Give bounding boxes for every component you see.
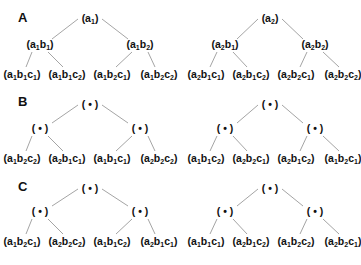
tree-mid-node: ( • ) [32, 122, 49, 134]
edge-mid-leaf [300, 219, 307, 234]
tree-leaf-node: (a1​b1​c1​) [94, 152, 131, 165]
tree-leaf-node: (a1​b1​c2​) [188, 152, 225, 165]
tree-leaf-node: (a2​b2​c2​) [325, 68, 361, 81]
panel-label-c: C [18, 179, 28, 194]
tree-root-node: (a1​) [82, 12, 99, 25]
tree-root-node: (a2​) [262, 12, 279, 25]
tree-mid-node: (a1​b1​) [26, 38, 53, 51]
edge-mid-leaf [233, 219, 247, 234]
tree-mid-node: ( • ) [132, 122, 149, 134]
edge-root-mid [237, 105, 258, 123]
edge-root-mid [102, 19, 128, 39]
tree-leaf-node: (a2​b1​c1​) [141, 235, 178, 248]
edge-mid-leaf [26, 136, 32, 151]
edge-mid-leaf [116, 52, 132, 67]
edge-mid-leaf [26, 52, 32, 67]
tree-leaf-node: (a1​b2​c2​) [278, 235, 315, 248]
tree-mid-node: ( • ) [32, 205, 49, 217]
edge-root-mid [52, 105, 78, 123]
edge-mid-leaf [210, 52, 217, 67]
edge-mid-leaf [210, 219, 217, 234]
edge-mid-leaf [116, 136, 132, 151]
panel-label-a: A [18, 10, 28, 25]
tree-leaf-node: (a2​b2​c2​) [141, 152, 178, 165]
panel-label-b: B [18, 94, 27, 109]
tree-mid-node: (a2​b2​) [301, 38, 328, 51]
edge-root-mid [237, 19, 258, 39]
tree-mid-node: ( • ) [307, 205, 324, 217]
diagram-svg: A(a1​)(a1​b1​)(a1​b2​)(a1​b1​c1​)(a1​b1​… [0, 0, 361, 265]
tree-leaf-node: (a2​b1​c1​) [188, 68, 225, 81]
edge-mid-leaf [233, 52, 247, 67]
tree-leaf-node: (a1​b2​c1​) [4, 235, 41, 248]
tree-mid-node: ( • ) [307, 122, 324, 134]
edge-root-mid [237, 189, 258, 206]
tree-leaf-node: (a2​b2​c1​) [325, 235, 361, 248]
edge-mid-leaf [233, 136, 247, 151]
edge-mid-leaf [323, 136, 339, 151]
tree-mid-node: ( • ) [217, 205, 234, 217]
tree-leaf-node: (a1​b2​c1​) [94, 68, 131, 81]
edge-mid-leaf [323, 219, 339, 234]
edge-mid-leaf [116, 219, 132, 234]
edge-mid-leaf [148, 52, 155, 67]
edge-root-mid [282, 19, 303, 39]
tree-leaf-node: (a2​b2​c2​) [49, 235, 86, 248]
tree-mid-node: (a1​b2​) [126, 38, 153, 51]
edge-mid-leaf [148, 136, 155, 151]
tree-leaf-node: (a2​b1​c1​) [49, 152, 86, 165]
edge-root-mid [282, 189, 303, 206]
edge-mid-leaf [48, 136, 63, 151]
tree-root-node: ( • ) [262, 182, 279, 194]
edge-root-mid [102, 189, 128, 206]
tree-leaf-node: (a1​b1​c1​) [188, 235, 225, 248]
tree-leaf-node: (a1​b2​c1​) [325, 152, 361, 165]
edge-mid-leaf [48, 52, 63, 67]
tree-leaf-node: (a2​b1​c2​) [233, 68, 270, 81]
tree-mid-node: (a2​b1​) [211, 38, 238, 51]
tree-leaf-node: (a1​b1​c1​) [4, 68, 41, 81]
tree-root-node: ( • ) [82, 98, 99, 110]
tree-leaf-node: (a1​b1​c2​) [94, 235, 131, 248]
tree-leaf-node: (a1​b1​c2​) [49, 68, 86, 81]
tree-root-node: ( • ) [262, 98, 279, 110]
edge-root-mid [282, 105, 303, 123]
tree-leaf-node: (a2​b2​c1​) [233, 152, 270, 165]
edge-mid-leaf [323, 52, 339, 67]
tree-root-node: ( • ) [82, 182, 99, 194]
tree-leaf-node: (a1​b2​c2​) [4, 152, 41, 165]
tree-leaf-node: (a2​b1​c2​) [233, 235, 270, 248]
tree-leaf-node: (a2​b2​c1​) [278, 68, 315, 81]
edge-mid-leaf [300, 52, 307, 67]
edge-mid-leaf [210, 136, 217, 151]
edge-mid-leaf [148, 219, 155, 234]
tree-mid-node: ( • ) [217, 122, 234, 134]
tree-mid-node: ( • ) [132, 205, 149, 217]
edge-mid-leaf [48, 219, 63, 234]
tree-leaf-node: (a2​b1​c2​) [278, 152, 315, 165]
edge-root-mid [102, 105, 128, 123]
edge-root-mid [52, 19, 78, 39]
edge-mid-leaf [26, 219, 32, 234]
tree-diagram: A(a1​)(a1​b1​)(a1​b2​)(a1​b1​c1​)(a1​b1​… [0, 0, 361, 265]
edge-mid-leaf [300, 136, 307, 151]
edge-root-mid [52, 189, 78, 206]
tree-leaf-node: (a1​b2​c2​) [141, 68, 178, 81]
